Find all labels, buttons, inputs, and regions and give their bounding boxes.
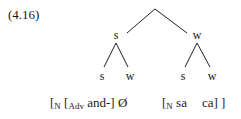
tree-node-s-w: w: [126, 70, 135, 82]
syllable-ca: ca]: [202, 95, 218, 110]
branch-root-right: [155, 9, 187, 33]
category-subscript-n: N: [54, 101, 61, 111]
tree-node-s: s: [114, 29, 119, 41]
tree-node-s-s: s: [100, 70, 105, 82]
null-morpheme: Ø: [115, 95, 128, 110]
tree-node-w-w: w: [208, 70, 217, 82]
category-subscript-adv: Adv: [68, 101, 84, 111]
branch-s-right: [116, 43, 128, 67]
bracketing-left: [N [Adv and-] Ø: [50, 96, 127, 109]
morpheme-and: and-]: [84, 95, 115, 110]
syllable-sa: sa: [173, 95, 187, 110]
branch-s-left: [104, 43, 116, 67]
bracketing-right: [N saca] ]: [162, 96, 225, 109]
branch-root-left: [127, 9, 155, 33]
tree-node-w: w: [193, 29, 202, 41]
category-subscript-n: N: [166, 101, 173, 111]
branch-w-right: [197, 43, 210, 67]
branch-w-left: [185, 43, 197, 67]
bracket-close: ]: [218, 95, 226, 110]
tree-node-w-s: s: [181, 70, 186, 82]
